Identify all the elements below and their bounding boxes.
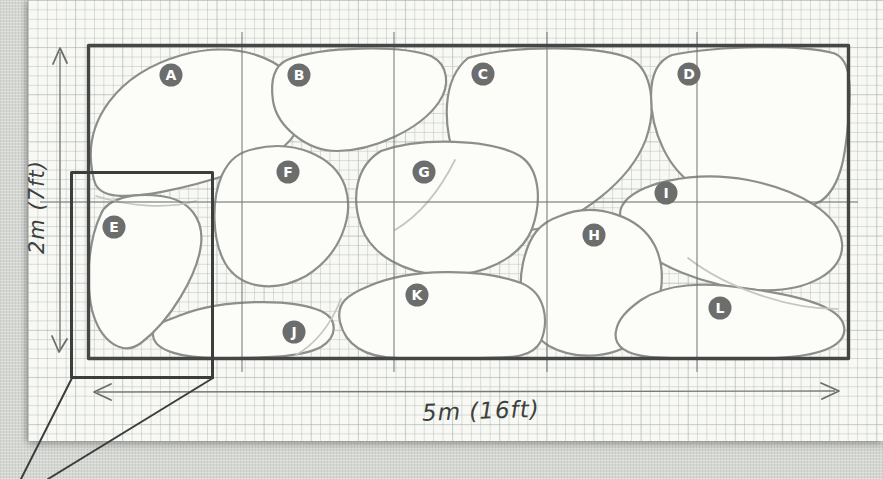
stone-C-label: C [478,66,488,82]
stone-K-shape [339,272,545,358]
stone-L-shape [616,285,845,359]
stone-G-shape [356,142,538,275]
height-dimension-label: 2m (7ft) [25,160,49,254]
stone-G-label: G [418,164,430,180]
stone-H-label: H [588,227,600,243]
callout-lines-group [21,378,213,479]
stone-J-label: J [290,324,296,340]
stone-L-label: L [716,300,725,316]
stone-K-label: K [412,287,424,303]
stone-I-label: I [663,185,668,201]
sketch-drawing: ABCDIFGHJKLE 2m (7ft) 5m (16ft) [0,0,883,479]
stone-A-label: A [166,67,177,83]
photo-background-fabric: ABCDIFGHJKLE 2m (7ft) 5m (16ft) [0,0,883,479]
stone-B-label: B [294,67,305,83]
stone-J-shape [153,302,334,358]
stone-D-label: D [683,66,695,82]
stone-E-label: E [109,219,119,235]
callout-line-1 [21,378,72,479]
stones-group [89,47,850,359]
stone-F-label: F [283,164,293,180]
width-dimension-label: 5m (16ft) [422,396,541,426]
width-dimension-line [97,391,835,392]
callout-line-2 [48,378,213,479]
